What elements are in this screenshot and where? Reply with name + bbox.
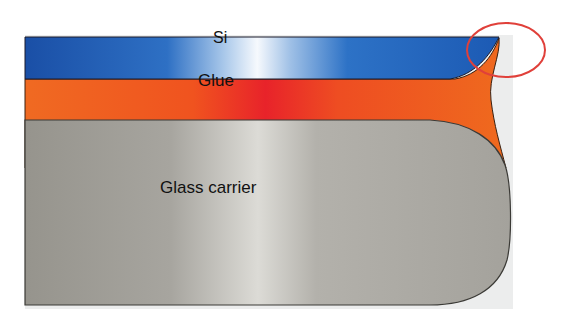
glass-carrier-label: Glass carrier xyxy=(160,178,257,197)
si-label: Si xyxy=(213,29,227,46)
si-layer xyxy=(25,37,499,79)
glue-label: Glue xyxy=(198,71,234,90)
glass-carrier-layer xyxy=(25,120,511,305)
wafer-cross-section-diagram: Si Glue Glass carrier xyxy=(0,0,567,325)
